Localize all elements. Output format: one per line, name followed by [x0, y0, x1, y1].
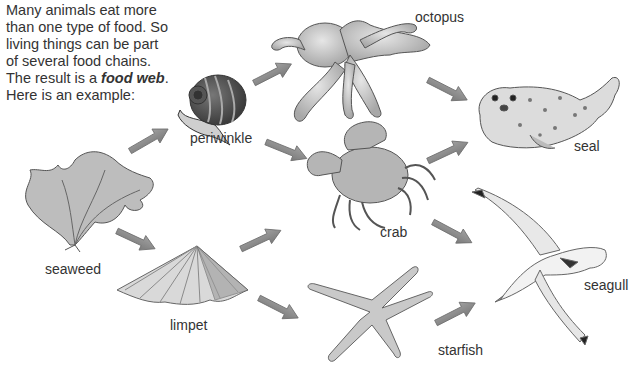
intro-line: than one type of food. So [6, 19, 216, 36]
intro-paragraph: Many animals eat more than one type of f… [6, 2, 216, 104]
arrow-periwinkle-to-octopus [250, 57, 295, 90]
arrow-crab-to-seal [425, 135, 472, 168]
arrow-seaweed-to-limpet [114, 224, 159, 256]
intro-line: of several food chains. [6, 53, 216, 70]
starfish-illustration [308, 267, 432, 362]
intro-line: Many animals eat more [6, 2, 216, 19]
arrow-limpet-to-crab [238, 223, 285, 256]
label-octopus: octopus [415, 9, 464, 25]
crab-illustration [307, 122, 435, 230]
arrow-starfish-to-seagull [432, 296, 478, 330]
arrow-limpet-to-starfish [255, 291, 301, 325]
octopus-illustration [272, 21, 430, 121]
result-prefix: The result is a [6, 70, 101, 86]
seagull-illustration [472, 188, 606, 345]
intro-line: living things can be part [6, 36, 216, 53]
label-seaweed: seaweed [45, 261, 101, 277]
intro-line: Here is an example: [6, 87, 216, 104]
food-web-term: food web [101, 70, 165, 86]
result-suffix: . [165, 70, 169, 86]
intro-line-result: The result is a food web. [6, 70, 216, 87]
label-limpet: limpet [170, 317, 207, 333]
arrow-seaweed-to-periwinkle [126, 122, 172, 158]
label-crab: crab [380, 224, 407, 240]
limpet-illustration [117, 246, 248, 304]
label-starfish: starfish [438, 342, 483, 358]
label-seal: seal [574, 138, 600, 154]
label-periwinkle: periwinkle [190, 130, 252, 146]
arrow-periwinkle-to-crab [263, 135, 310, 166]
label-seagull: seagull [584, 277, 628, 293]
arrow-octopus-to-seal [424, 73, 470, 107]
arrow-crab-to-seagull [429, 215, 475, 250]
